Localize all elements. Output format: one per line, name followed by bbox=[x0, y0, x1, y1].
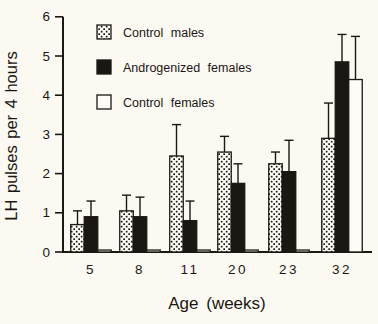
bar-control-males-20wk bbox=[218, 152, 232, 252]
bar-control-males-5wk bbox=[71, 225, 85, 252]
bar-control-males-23wk bbox=[269, 164, 283, 252]
bar-control-females-11wk bbox=[197, 250, 211, 252]
bar-androgenized-females-8wk bbox=[133, 217, 147, 252]
y-tick-label: 3 bbox=[42, 127, 50, 142]
bar-control-females-20wk bbox=[245, 250, 259, 252]
bar-androgenized-females-11wk bbox=[183, 221, 197, 252]
x-tick-label: 32 bbox=[332, 262, 352, 277]
bar-chart: 01234565811202332 Control malesAndrogeni… bbox=[0, 0, 378, 324]
lh-pulses-figure: 01234565811202332 Control malesAndrogeni… bbox=[0, 0, 378, 324]
legend-item-androgenized-females: Androgenized females bbox=[97, 60, 251, 75]
y-tick-label: 0 bbox=[42, 245, 50, 260]
y-tick-label: 5 bbox=[42, 49, 50, 64]
bar-group-11wk bbox=[170, 125, 211, 252]
legend-swatch-control-females bbox=[97, 95, 111, 109]
y-tick-label: 4 bbox=[42, 88, 50, 103]
bar-androgenized-females-23wk bbox=[282, 172, 296, 252]
y-tick-label: 6 bbox=[42, 9, 50, 24]
legend-label: Control males bbox=[123, 26, 204, 40]
bar-control-females-8wk bbox=[147, 250, 161, 252]
y-axis-title: LH pulses per 4 hours bbox=[2, 51, 20, 220]
x-tick-label: 5 bbox=[86, 262, 96, 277]
bar-group-23wk bbox=[269, 140, 310, 252]
bar-androgenized-females-20wk bbox=[231, 183, 245, 252]
y-tick-label: 2 bbox=[42, 166, 50, 181]
legend-label: Control females bbox=[123, 96, 215, 110]
bar-control-females-23wk bbox=[296, 250, 310, 252]
legend-item-control-males: Control males bbox=[97, 25, 204, 40]
bar-group-8wk bbox=[120, 195, 161, 252]
bar-androgenized-females-5wk bbox=[84, 217, 98, 252]
x-tick-label: 8 bbox=[135, 262, 145, 277]
bar-androgenized-females-32wk bbox=[335, 62, 349, 252]
legend-swatch-androgenized-females bbox=[97, 60, 111, 74]
bar-group-5wk bbox=[71, 201, 112, 252]
x-tick-label: 20 bbox=[228, 262, 248, 277]
bar-control-females-5wk bbox=[98, 250, 112, 252]
x-tick-label: 11 bbox=[180, 262, 199, 277]
bar-control-males-11wk bbox=[170, 156, 184, 252]
bar-control-females-32wk bbox=[349, 80, 363, 252]
legend-swatch-control-males bbox=[97, 25, 111, 39]
legend-label: Androgenized females bbox=[123, 61, 251, 75]
bar-control-males-8wk bbox=[120, 211, 134, 252]
y-tick-label: 1 bbox=[42, 205, 50, 220]
legend-item-control-females: Control females bbox=[97, 95, 215, 110]
bar-control-males-32wk bbox=[322, 138, 336, 252]
x-tick-label: 23 bbox=[279, 262, 299, 277]
legend: Control malesAndrogenized femalesControl… bbox=[97, 25, 251, 110]
bar-group-32wk bbox=[322, 34, 363, 252]
x-axis-title: Age (weeks) bbox=[168, 294, 265, 313]
bar-group-20wk bbox=[218, 136, 259, 252]
